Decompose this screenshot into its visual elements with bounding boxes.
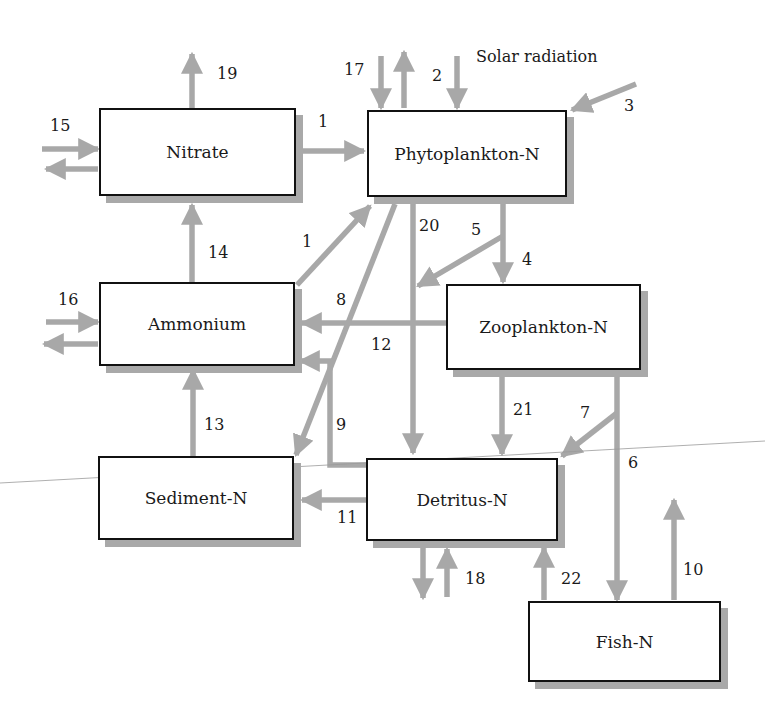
- flow-label-18: 18: [465, 571, 485, 587]
- flow-label-2: 2: [432, 68, 442, 84]
- flow-label-1-ammonium: 1: [302, 234, 312, 250]
- flow-label-9: 9: [336, 417, 346, 433]
- compartment-nitrate-label: Nitrate: [166, 142, 228, 162]
- compartment-ammonium-label: Ammonium: [148, 314, 246, 334]
- compartment-phytoplankton-label: Phytoplankton-N: [394, 144, 539, 164]
- flow-label-8: 8: [336, 292, 346, 308]
- flow-label-21: 21: [513, 402, 533, 418]
- flow-label-12: 12: [371, 337, 391, 353]
- compartment-detritus: Detritus-N: [366, 458, 558, 541]
- compartment-sediment: Sediment-N: [98, 456, 294, 540]
- flow-label-13: 13: [204, 417, 224, 433]
- compartment-sediment-label: Sediment-N: [145, 488, 248, 508]
- flow-label-17: 17: [344, 62, 364, 78]
- compartment-nitrate: Nitrate: [99, 108, 296, 196]
- flow-label-4: 4: [522, 252, 532, 268]
- flow-label-20: 20: [419, 218, 439, 234]
- solar-radiation-label: Solar radiation: [476, 49, 598, 65]
- flow-label-11: 11: [337, 510, 357, 526]
- compartment-detritus-label: Detritus-N: [416, 490, 507, 510]
- flow-label-3: 3: [624, 98, 634, 114]
- flow-label-22: 22: [561, 571, 581, 587]
- compartment-fish-label: Fish-N: [596, 632, 654, 652]
- compartment-zooplankton: Zooplankton-N: [446, 284, 641, 370]
- flow-label-1-nitrate: 1: [318, 114, 328, 130]
- compartment-fish: Fish-N: [528, 601, 721, 682]
- compartment-phytoplankton: Phytoplankton-N: [367, 110, 567, 197]
- flow-label-16: 16: [58, 292, 78, 308]
- flow-label-5: 5: [471, 222, 481, 238]
- flow-label-10: 10: [683, 562, 703, 578]
- flow-label-19: 19: [217, 66, 237, 82]
- flow-label-7: 7: [580, 405, 590, 421]
- nitrogen-cycle-diagram: Nitrate Phytoplankton-N Ammonium Zooplan…: [0, 0, 765, 721]
- flow-label-14: 14: [208, 245, 228, 261]
- flow-label-6: 6: [628, 455, 638, 471]
- flow-label-15: 15: [50, 118, 70, 134]
- compartment-ammonium: Ammonium: [99, 282, 295, 366]
- compartment-zooplankton-label: Zooplankton-N: [479, 317, 608, 337]
- flow-5: [418, 236, 503, 286]
